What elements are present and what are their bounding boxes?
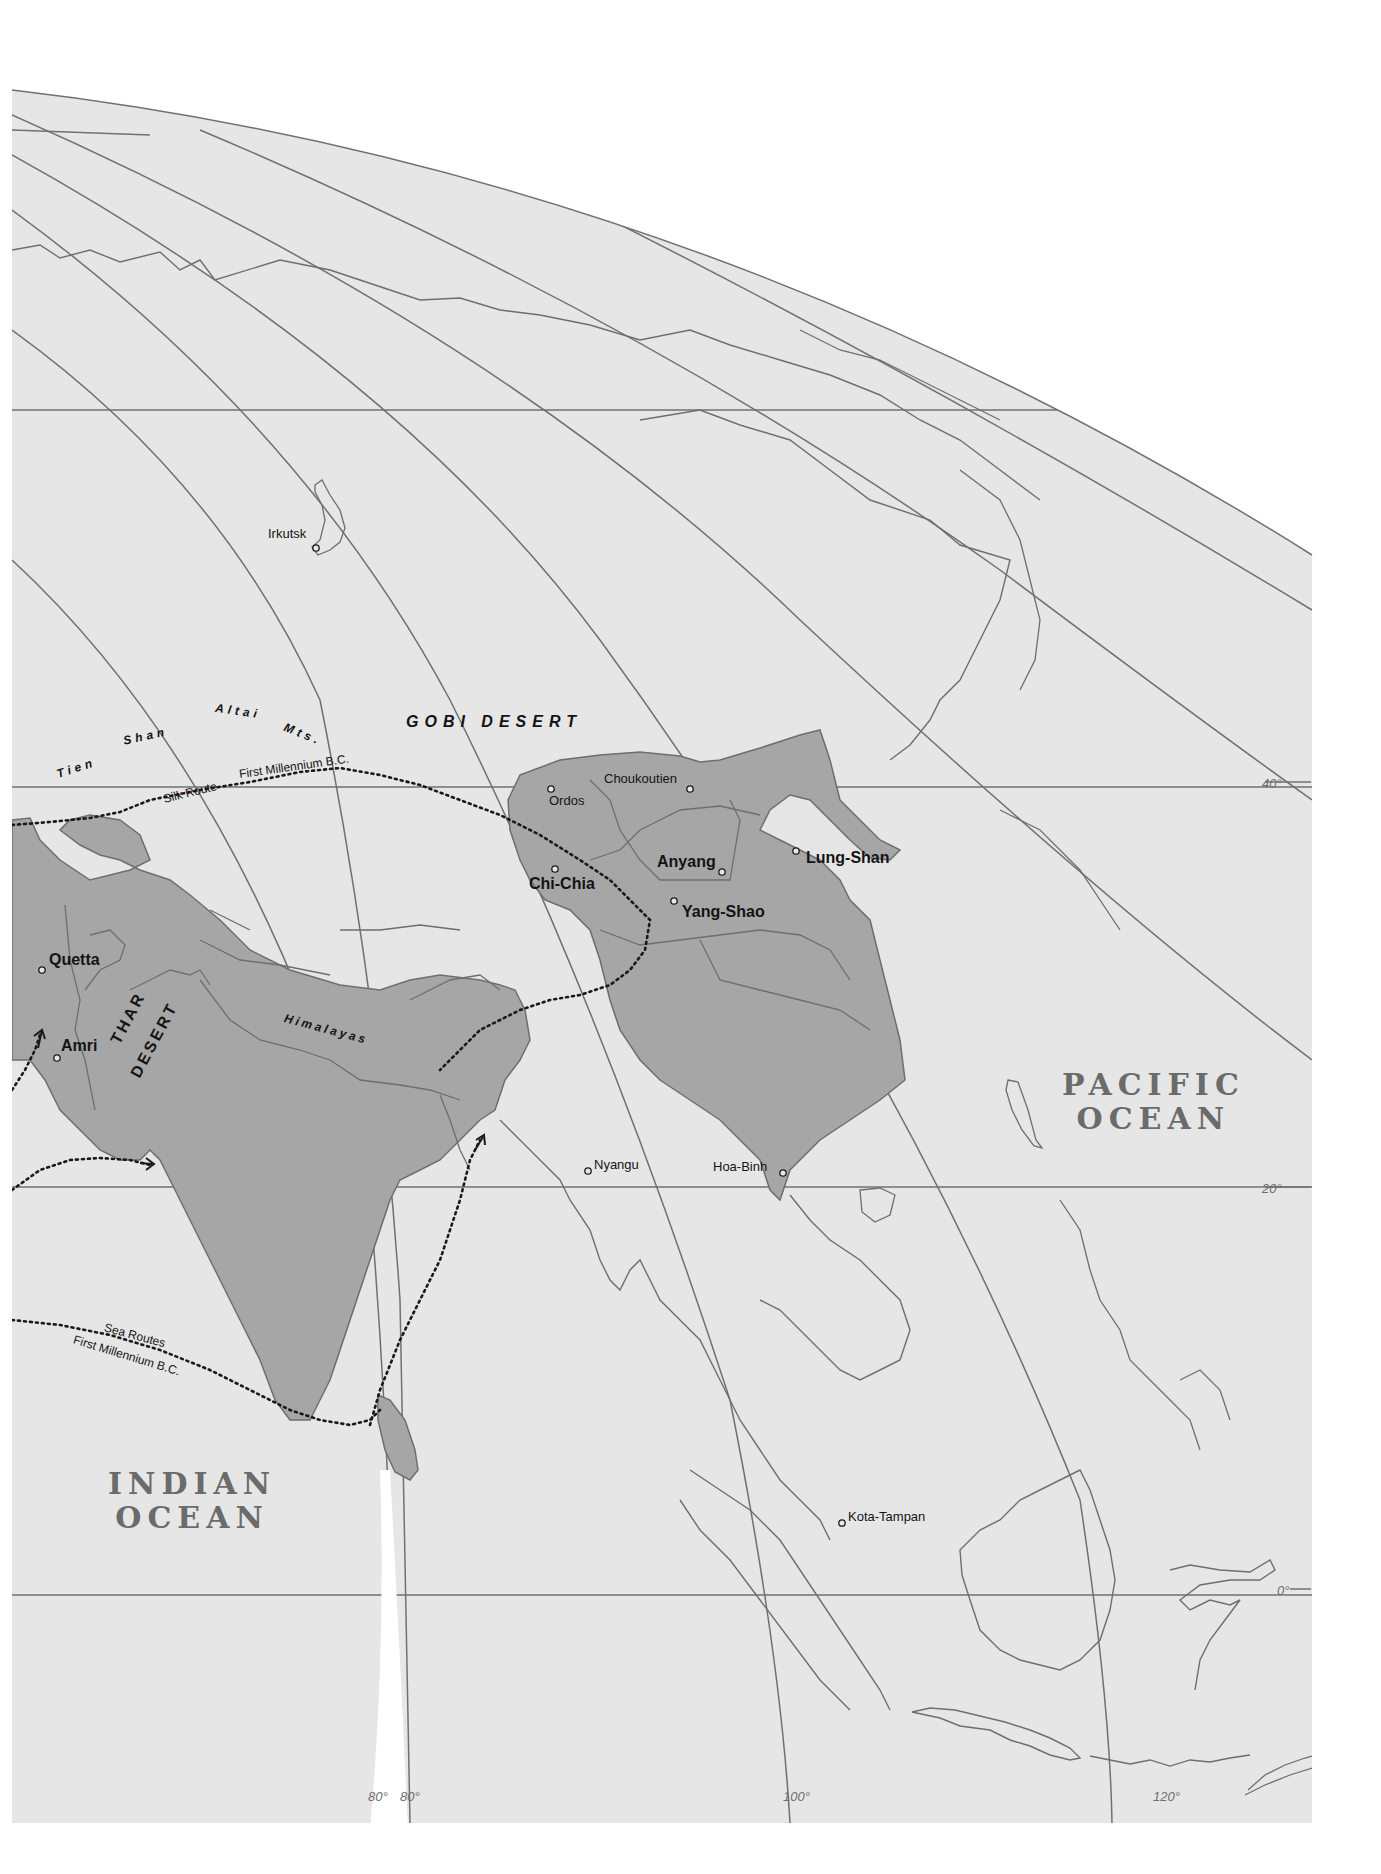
marker-nyangu	[585, 1168, 591, 1174]
label-lon-80-left: 80°	[368, 1790, 388, 1803]
label-irkutsk: Irkutsk	[268, 527, 306, 540]
label-lat-40: 40°	[1262, 777, 1282, 790]
map-canvas	[0, 0, 1381, 1874]
label-quetta: Quetta	[49, 952, 100, 968]
label-yang-shao: Yang-Shao	[682, 904, 765, 920]
marker-lung-shan	[793, 848, 799, 854]
ocean-label-indian: INDIAN OCEAN	[108, 1467, 276, 1534]
label-choukoutien: Choukoutien	[604, 772, 677, 785]
label-lat-0: 0°	[1277, 1584, 1289, 1597]
ocean-label-indian-line1: INDIAN	[108, 1467, 276, 1501]
marker-choukoutien	[687, 786, 693, 792]
label-anyang: Anyang	[657, 854, 716, 870]
label-amri: Amri	[61, 1038, 97, 1054]
marker-chi-chia	[552, 866, 558, 872]
label-ordos: Ordos	[549, 794, 584, 807]
ocean-label-indian-line2: OCEAN	[108, 1501, 276, 1535]
marker-yang-shao	[671, 898, 677, 904]
label-nyangu: Nyangu	[594, 1158, 639, 1171]
ocean-label-pacific-line1: PACIFIC	[1062, 1068, 1245, 1102]
marker-irkutsk	[313, 545, 319, 551]
marker-hoa-binh	[780, 1170, 786, 1176]
label-lung-shan: Lung-Shan	[806, 850, 890, 866]
label-lon-120: 120°	[1153, 1790, 1180, 1803]
label-lon-100: 100°	[783, 1790, 810, 1803]
label-lon-80-right: 80°	[400, 1790, 420, 1803]
ocean-label-pacific: PACIFIC OCEAN	[1062, 1068, 1245, 1135]
marker-amri	[54, 1055, 60, 1061]
label-kota-tampan: Kota-Tampan	[848, 1510, 925, 1523]
label-lat-20: 20°	[1262, 1182, 1282, 1195]
ocean-label-pacific-line2: OCEAN	[1062, 1102, 1245, 1136]
label-gobi-desert: GOBI DESERT	[406, 714, 582, 730]
marker-kota-tampan	[839, 1520, 845, 1526]
marker-ordos	[548, 786, 554, 792]
marker-anyang	[719, 869, 725, 875]
marker-quetta	[39, 967, 45, 973]
label-hoa-binh: Hoa-Binh	[713, 1160, 767, 1173]
label-chi-chia: Chi-Chia	[529, 876, 595, 892]
